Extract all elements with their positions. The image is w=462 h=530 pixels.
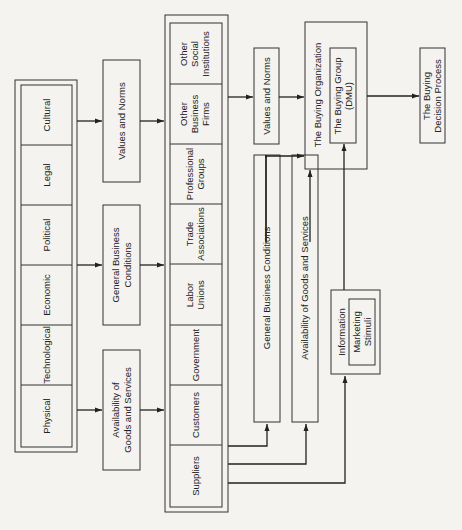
environment-outer-box — [15, 80, 77, 452]
availability-label-2: Goods and Services — [122, 367, 133, 453]
inst-government: Government — [190, 329, 201, 382]
general-business-label-1: General Business — [110, 227, 121, 302]
factor-political: Political — [41, 219, 52, 252]
connector-to-general-business — [228, 424, 267, 446]
inst-labor-1: Labor — [184, 283, 195, 307]
environment-inner-box — [21, 85, 72, 447]
inst-professional-1: Professional — [184, 148, 195, 200]
factor-legal: Legal — [41, 163, 52, 186]
availability-long-label: Availability of Goods and Services — [299, 216, 310, 360]
general-business-label-2: Conditions — [122, 242, 133, 287]
inst-business-3: Firms — [200, 102, 211, 126]
general-business-long-label: General Business Conditions — [261, 226, 272, 349]
factor-cultural: Cultural — [41, 99, 52, 132]
inst-business-1: Other — [178, 102, 189, 126]
inst-trade-2: Associations — [195, 207, 206, 261]
inst-suppliers: Suppliers — [190, 456, 201, 496]
inst-social-1: Other — [178, 42, 189, 66]
inst-trade-1: Trade — [184, 222, 195, 246]
factor-economic: Economic — [41, 274, 52, 316]
inst-professional-2: Groups — [195, 158, 206, 189]
buying-decision-label-2: Decision Process — [432, 59, 443, 133]
inst-social-3: Institutions — [200, 31, 211, 77]
buying-organization-label: The Buying Organization — [312, 43, 323, 148]
inst-business-2: Business — [189, 94, 200, 133]
buying-decision-label-1: The Buying — [421, 72, 432, 120]
values-norms-label: Values and Norms — [116, 82, 127, 160]
information-label: Information — [336, 308, 347, 356]
factor-physical: Physical — [41, 398, 52, 433]
environment-factors-group: Cultural Legal Political Economic Techno… — [15, 80, 77, 452]
inst-social-2: Social — [189, 41, 200, 67]
inst-customers: Customers — [190, 392, 201, 438]
buying-group-label-1: The Buying Group — [332, 57, 343, 134]
availability-label-1: Availability of — [110, 382, 121, 438]
institutions-group: Other Social Institutions Other Business… — [165, 15, 228, 512]
buying-group-label-2: (DMU) — [343, 82, 354, 110]
factor-technological: Technological — [41, 326, 52, 384]
connector-to-information — [228, 376, 345, 483]
buying-behavior-diagram: Cultural Legal Political Economic Techno… — [0, 0, 462, 530]
marketing-stimuli-label-1: Marketing — [351, 311, 362, 353]
inst-labor-2: Unions — [195, 280, 206, 310]
marketing-stimuli-label-2: Stimuli — [362, 318, 373, 347]
values-norms-right-label: Values and Norms — [261, 57, 272, 135]
